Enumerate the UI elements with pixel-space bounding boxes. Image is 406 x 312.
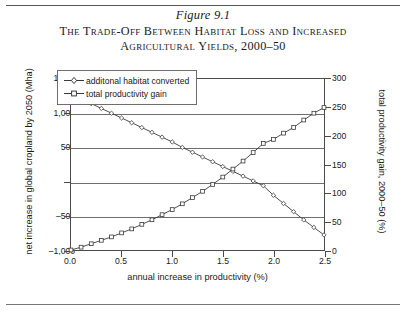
y-axis-right-tick-label: 250	[332, 102, 372, 112]
series-productivity	[69, 106, 326, 252]
y-axis-right-tick-label: 300	[332, 73, 372, 83]
y-axis-right-tick-label: 0	[332, 246, 372, 256]
y-axis-right-tick-mark	[325, 193, 331, 194]
x-axis-tick-label: 0.5	[101, 256, 141, 266]
figure-page: Figure 9.1 The Trade-Off Between Habitat…	[0, 0, 406, 312]
data-point-marker	[119, 116, 123, 120]
data-point-marker	[251, 151, 255, 155]
x-axis-tick-label: 1.0	[152, 256, 192, 266]
figure-title: The Trade-Off Between Habitat Loss and I…	[16, 24, 390, 54]
data-point-marker	[292, 126, 296, 130]
data-point-marker	[191, 196, 195, 200]
data-point-marker	[170, 140, 174, 144]
legend-label-productivity: total productivity gain	[85, 89, 167, 99]
top-rule	[6, 5, 400, 6]
figure-title-line1: The Trade-Off Between Habitat Loss and I…	[60, 24, 347, 38]
x-axis-tick-label: 2.0	[254, 256, 294, 266]
legend-marker-square-icon	[63, 87, 85, 100]
x-axis-tick-mark	[274, 251, 275, 257]
x-axis-tick-mark	[121, 251, 122, 257]
x-axis-tick-mark	[223, 251, 224, 257]
data-point-marker	[79, 245, 83, 249]
data-point-marker	[140, 222, 144, 226]
data-point-marker	[190, 150, 194, 154]
x-axis-title-text: annual increase in productivity (%)	[127, 272, 267, 282]
legend: additonal habitat converted total produc…	[57, 70, 197, 105]
y-axis-right-tick-mark	[325, 78, 331, 79]
series-habitat	[69, 91, 326, 238]
data-point-marker	[170, 208, 174, 212]
data-point-marker	[69, 248, 73, 252]
legend-marker-diamond-icon	[63, 74, 85, 87]
data-point-marker	[180, 202, 184, 206]
y-axis-right-tick-label: 200	[332, 131, 372, 141]
figure-number: Figure 9.1	[0, 8, 406, 23]
data-point-marker	[211, 183, 215, 187]
y-axis-right-tick-label: 100	[332, 188, 372, 198]
data-point-marker	[160, 213, 164, 217]
x-axis-tick-mark	[325, 251, 326, 257]
figure-title-line2: Agricultural Yields, 2000–50	[120, 39, 286, 53]
data-point-marker	[180, 145, 184, 149]
data-point-marker	[322, 106, 326, 110]
data-point-marker	[221, 164, 225, 168]
data-point-marker	[201, 189, 205, 193]
y-axis-right-tick-mark	[325, 136, 331, 137]
x-axis-tick-label: 2.5	[305, 256, 345, 266]
data-point-marker	[150, 130, 154, 134]
data-point-marker	[110, 235, 114, 239]
series-line	[71, 107, 324, 250]
y-axis-left-title-text: net increase in global cropland by 2050 …	[24, 68, 34, 254]
y-axis-left-title: net increase in global cropland by 2050 …	[24, 67, 35, 257]
y-axis-right-tick-mark	[325, 222, 331, 223]
data-point-marker	[89, 242, 93, 246]
x-axis-title: annual increase in productivity (%)	[70, 272, 325, 282]
data-point-marker	[312, 111, 316, 115]
x-axis-tick-label: 0.0	[50, 256, 90, 266]
data-point-marker	[130, 121, 134, 125]
data-point-marker	[109, 111, 113, 115]
data-point-marker	[200, 155, 204, 159]
legend-label-habitat: additonal habitat converted	[85, 76, 189, 86]
data-point-marker	[120, 231, 124, 235]
y-axis-right-title: total productivity gain, 2000–50 (%)	[376, 67, 387, 257]
data-point-marker	[150, 218, 154, 222]
legend-item-habitat: additonal habitat converted	[63, 74, 189, 87]
data-point-marker	[302, 118, 306, 122]
data-point-marker	[99, 238, 103, 242]
data-point-marker	[130, 227, 134, 231]
data-point-marker	[231, 167, 235, 171]
y-axis-right-tick-label: 50	[332, 217, 372, 227]
y-axis-right-title-text: total productivity gain, 2000–50 (%)	[377, 89, 387, 233]
legend-item-productivity: total productivity gain	[63, 87, 189, 100]
y-axis-right-tick-label: 150	[332, 160, 372, 170]
y-axis-right-tick-mark	[325, 165, 331, 166]
data-point-marker	[261, 142, 265, 146]
data-point-marker	[99, 106, 103, 110]
data-point-marker	[251, 179, 255, 183]
data-point-marker	[272, 138, 276, 142]
data-point-marker	[241, 174, 245, 178]
data-point-marker	[282, 131, 286, 135]
x-axis-tick-label: 1.5	[203, 256, 243, 266]
data-point-marker	[160, 135, 164, 139]
data-point-marker	[241, 159, 245, 163]
data-point-marker	[221, 175, 225, 179]
x-axis-tick-mark	[172, 251, 173, 257]
data-point-marker	[210, 160, 214, 164]
data-point-marker	[140, 125, 144, 129]
chart: net increase in global cropland by 2050 …	[0, 60, 406, 310]
series-line	[71, 93, 324, 235]
